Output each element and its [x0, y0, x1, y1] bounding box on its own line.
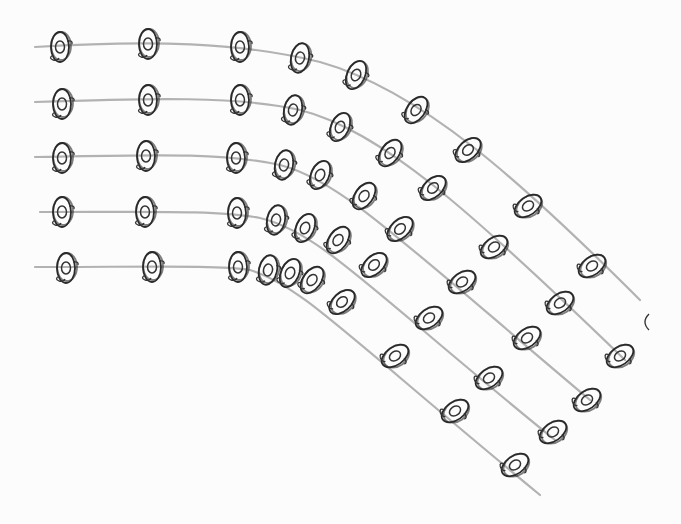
figure-oval: [471, 362, 508, 397]
graphite-line: [35, 43, 640, 300]
figure-oval: [476, 231, 513, 266]
figure-oval: [382, 212, 419, 248]
graphite-line: [35, 155, 590, 400]
sketch-canvas: [0, 0, 681, 524]
graphite-line: [40, 212, 555, 440]
figure-oval: [450, 133, 487, 169]
figure-oval: [324, 285, 361, 321]
figure-oval: [272, 148, 299, 182]
figure-oval: [535, 416, 572, 451]
figure-oval: [281, 93, 308, 127]
figure-oval: [574, 250, 611, 285]
figure-oval: [542, 287, 579, 322]
graphite-line: [35, 99, 625, 360]
pencil-sketch: [0, 0, 681, 524]
motion-path-5: [35, 252, 540, 495]
figure-oval: [321, 222, 356, 259]
figure-oval: [509, 322, 546, 357]
figure-oval: [325, 109, 357, 145]
figure-oval: [497, 449, 534, 484]
figure-oval: [53, 143, 75, 173]
figure-oval: [444, 266, 481, 301]
figure-oval: [399, 92, 434, 129]
graphite-line: [35, 267, 540, 495]
figure-oval: [53, 89, 75, 119]
figure-oval: [228, 198, 250, 228]
figure-oval: [510, 190, 547, 225]
figure-oval: [377, 340, 414, 375]
figure-oval: [569, 384, 606, 419]
figure-oval: [264, 203, 291, 237]
motion-path-2: [35, 85, 639, 375]
figure-oval: [347, 178, 382, 215]
figure-oval: [290, 210, 322, 246]
stray-mark: [645, 314, 649, 330]
figure-oval: [411, 302, 448, 337]
motion-path-3: [35, 141, 606, 419]
